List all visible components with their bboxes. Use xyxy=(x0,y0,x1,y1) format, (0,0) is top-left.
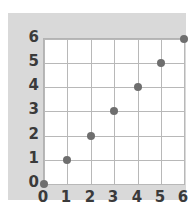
y-tick-label: 5 xyxy=(17,54,39,69)
x-axis-tick-labels: 0 1 2 3 4 5 6 xyxy=(43,190,185,208)
gridline-horizontal xyxy=(44,136,184,137)
y-axis-tick-labels: 6 5 4 3 2 1 0 xyxy=(14,38,39,185)
x-tick-label: 5 xyxy=(149,190,171,205)
y-tick-label: 4 xyxy=(17,78,39,93)
gridline-horizontal xyxy=(44,184,184,185)
data-point xyxy=(63,156,71,164)
data-point xyxy=(40,180,48,188)
x-tick-label: 0 xyxy=(32,190,54,205)
x-tick-label: 2 xyxy=(79,190,101,205)
x-tick-label: 6 xyxy=(172,190,194,205)
x-tick-label: 1 xyxy=(55,190,77,205)
data-point xyxy=(180,35,188,43)
chart-figure: 6 5 4 3 2 1 0 0 1 2 3 4 5 6 xyxy=(0,0,195,208)
gridline-vertical xyxy=(184,39,185,184)
x-tick-label: 4 xyxy=(126,190,148,205)
y-tick-label: 2 xyxy=(17,127,39,142)
data-point xyxy=(87,132,95,140)
y-tick-label: 1 xyxy=(17,151,39,166)
gridline-horizontal xyxy=(44,39,184,40)
y-tick-label: 6 xyxy=(17,30,39,45)
x-tick-label: 3 xyxy=(102,190,124,205)
gridline-horizontal xyxy=(44,87,184,88)
plot-area xyxy=(43,38,185,185)
y-tick-label: 3 xyxy=(17,102,39,117)
y-tick-label: 0 xyxy=(17,175,39,190)
chart-panel: 6 5 4 3 2 1 0 0 1 2 3 4 5 6 xyxy=(8,13,186,200)
data-point xyxy=(157,59,165,67)
data-point xyxy=(110,107,118,115)
data-point xyxy=(134,83,142,91)
